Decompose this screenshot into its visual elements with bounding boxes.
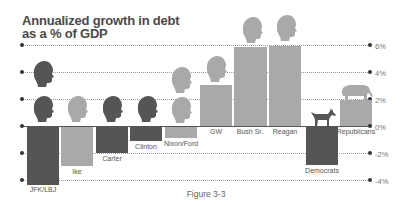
tick-6: 6% (375, 42, 386, 51)
chart-title: Annualized growth in debt as a % of GDP (22, 14, 180, 40)
gridline-4 (22, 72, 370, 73)
label-ike: Ike (55, 168, 99, 175)
tick-2: 2% (375, 96, 386, 105)
bar-clinton (130, 126, 162, 141)
label-republicans: Republicans (334, 128, 378, 135)
elephant-icon (340, 84, 374, 101)
label-democrats: Democrats (300, 167, 344, 174)
label-nixon-ford: Nixon/Ford (159, 140, 203, 147)
bar-reagan (269, 46, 301, 126)
head-clinton-icon (134, 95, 158, 123)
label-carter: Carter (90, 155, 134, 162)
head-nixon-icon (168, 66, 192, 94)
tick-neg2: -2% (375, 150, 388, 159)
donkey-icon (309, 108, 337, 126)
figure-caption: Figure 3-3 (0, 189, 412, 199)
tick-neg4: -4% (375, 177, 388, 186)
head-reagan-icon (273, 14, 297, 42)
gridline-6 (22, 45, 370, 46)
head-gw-icon (203, 55, 227, 83)
bar-jfk-lbj (27, 126, 59, 185)
zero-axis (22, 126, 370, 127)
head-lbj-icon (30, 95, 54, 123)
head-ike-icon (64, 95, 88, 123)
label-reagan: Reagan (263, 128, 307, 135)
bar-bush-sr (234, 47, 267, 126)
bar-nixon-ford (165, 126, 197, 138)
title-line-2: as a % of GDP (22, 27, 180, 40)
gridline-neg4 (22, 180, 370, 181)
head-ford-icon (168, 96, 192, 124)
bar-gw (200, 85, 232, 126)
head-bush-sr-icon (239, 16, 263, 44)
head-carter-icon (99, 95, 123, 123)
bar-ike (61, 126, 93, 166)
head-jfk-icon (30, 60, 54, 88)
tick-4: 4% (375, 69, 386, 78)
bar-republicans (340, 100, 372, 126)
